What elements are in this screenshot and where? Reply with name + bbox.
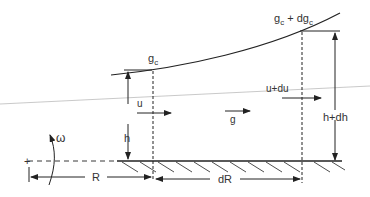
label-r: R [92,171,100,183]
label-dr: dR [218,173,232,185]
label-u-du: u+du [266,83,289,94]
label-gc: gc [148,52,158,67]
label-h: h [124,132,130,144]
reference-thin-line [0,86,370,104]
label-u: u [137,98,143,109]
label-origin: + [24,155,30,167]
label-gc-dgc: gc + dgc [274,12,313,27]
label-omega: ω [56,131,65,145]
fluid-layer-diagram: + ω R dR h h+dh u u+du g gc gc + dgc [0,0,370,197]
label-g: g [230,114,236,125]
label-h-dh: h+dh [323,111,348,123]
ground-hatching [122,162,345,172]
